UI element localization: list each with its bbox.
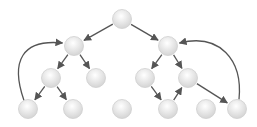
node-l3e: [197, 100, 216, 119]
node-root: [113, 10, 132, 29]
node-l2d: [179, 69, 198, 88]
edge-l3d-to-l2d: [174, 88, 182, 101]
node-l2c: [136, 69, 155, 88]
edges-layer: [18, 24, 239, 103]
node-l1b: [159, 37, 178, 56]
node-l3d: [159, 100, 178, 119]
edge-l1b-to-l2c: [152, 55, 162, 69]
edge-l1b-to-l2d: [174, 55, 182, 68]
node-l3f: [228, 100, 247, 119]
node-l1a: [65, 37, 84, 56]
node-l2b: [87, 69, 106, 88]
edge-root-to-l1b: [131, 24, 158, 40]
node-l3a: [19, 100, 38, 119]
edge-l2a-to-l3a: [35, 86, 45, 99]
node-l2a: [42, 69, 61, 88]
node-l3b: [64, 100, 83, 119]
edge-l1a-to-l2b: [80, 55, 90, 69]
tree-diagram: [0, 0, 257, 127]
edge-l1a-to-l2a: [58, 55, 68, 69]
edge-l2a-to-l3b: [57, 87, 66, 100]
edge-root-to-l1a: [84, 24, 113, 40]
node-l3c: [113, 100, 132, 119]
edge-l2d-to-l3f: [197, 84, 227, 103]
edge-l2c-to-l3d: [151, 86, 161, 99]
